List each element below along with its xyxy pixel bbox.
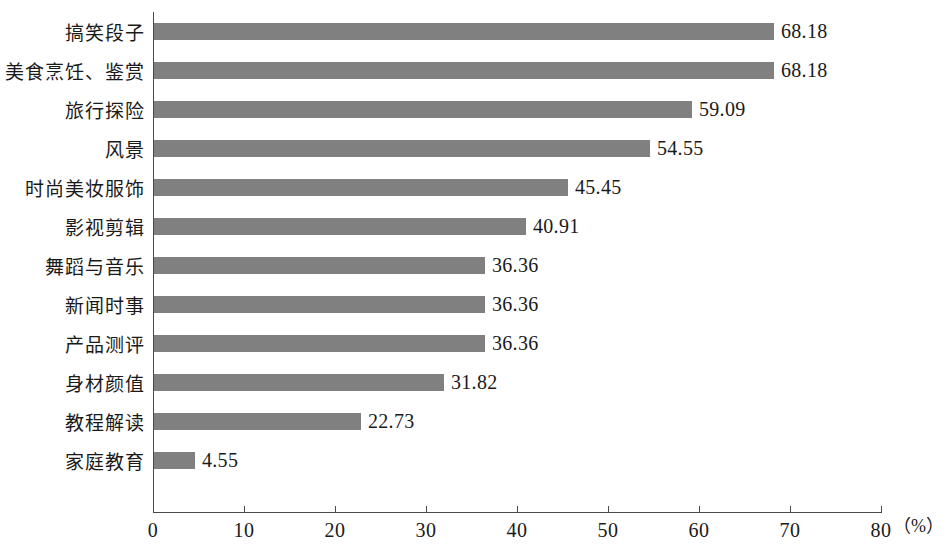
x-axis-tick-label: 50 bbox=[578, 516, 638, 544]
x-axis-tick bbox=[244, 506, 245, 512]
bar-value-label: 45.45 bbox=[575, 168, 622, 207]
plot-area: 搞笑段子68.18美食烹饪、鉴赏68.18旅行探险59.09风景54.55时尚美… bbox=[0, 0, 948, 546]
category-label: 家庭教育 bbox=[0, 441, 145, 480]
bar-row: 风景54.55 bbox=[0, 129, 948, 168]
category-label: 影视剪辑 bbox=[0, 207, 145, 246]
x-axis-tick bbox=[426, 506, 427, 512]
bar-row: 搞笑段子68.18 bbox=[0, 12, 948, 51]
bar-row: 时尚美妆服饰45.45 bbox=[0, 168, 948, 207]
bar-value-label: 36.36 bbox=[492, 285, 539, 324]
bar-value-label: 68.18 bbox=[781, 12, 828, 51]
x-axis-tick-label: 60 bbox=[669, 516, 729, 544]
bar-value-label: 40.91 bbox=[533, 207, 580, 246]
x-axis-tick bbox=[517, 506, 518, 512]
bar bbox=[154, 374, 444, 391]
bar bbox=[154, 296, 485, 313]
x-axis-line bbox=[153, 512, 882, 513]
category-label: 搞笑段子 bbox=[0, 12, 145, 51]
bar-value-label: 59.09 bbox=[699, 90, 746, 129]
x-axis-tick-label: 10 bbox=[214, 516, 274, 544]
bar-row: 影视剪辑40.91 bbox=[0, 207, 948, 246]
bar-row: 旅行探险59.09 bbox=[0, 90, 948, 129]
category-label: 新闻时事 bbox=[0, 285, 145, 324]
bar bbox=[154, 23, 774, 40]
x-axis-tick bbox=[699, 506, 700, 512]
bar-row: 教程解读22.73 bbox=[0, 402, 948, 441]
x-axis-tick-label: 0 bbox=[123, 516, 183, 544]
bar-chart: 搞笑段子68.18美食烹饪、鉴赏68.18旅行探险59.09风景54.55时尚美… bbox=[0, 0, 948, 546]
bar bbox=[154, 140, 650, 157]
category-label: 教程解读 bbox=[0, 402, 145, 441]
bar bbox=[154, 179, 568, 196]
bar-row: 家庭教育4.55 bbox=[0, 441, 948, 480]
bar-value-label: 54.55 bbox=[657, 129, 704, 168]
category-label: 旅行探险 bbox=[0, 90, 145, 129]
bar bbox=[154, 335, 485, 352]
x-axis-tick bbox=[608, 506, 609, 512]
category-label: 产品测评 bbox=[0, 324, 145, 363]
bar-value-label: 22.73 bbox=[368, 402, 415, 441]
bar bbox=[154, 452, 195, 469]
bar bbox=[154, 257, 485, 274]
x-axis-tick-label: 70 bbox=[760, 516, 820, 544]
bar-row: 新闻时事36.36 bbox=[0, 285, 948, 324]
category-label: 美食烹饪、鉴赏 bbox=[0, 51, 145, 90]
bar bbox=[154, 218, 526, 235]
bar-row: 产品测评36.36 bbox=[0, 324, 948, 363]
bar-value-label: 4.55 bbox=[202, 441, 238, 480]
bar bbox=[154, 101, 692, 118]
category-label: 时尚美妆服饰 bbox=[0, 168, 145, 207]
bar bbox=[154, 62, 774, 79]
bar-value-label: 36.36 bbox=[492, 324, 539, 363]
bar-value-label: 31.82 bbox=[451, 363, 498, 402]
x-axis-unit-label: （%） bbox=[893, 512, 944, 540]
x-axis-tick bbox=[153, 506, 154, 512]
x-axis-tick bbox=[881, 506, 882, 512]
x-axis-tick-label: 20 bbox=[305, 516, 365, 544]
x-axis-tick-label: 40 bbox=[487, 516, 547, 544]
bar-row: 身材颜值31.82 bbox=[0, 363, 948, 402]
bar bbox=[154, 413, 361, 430]
bar-value-label: 68.18 bbox=[781, 51, 828, 90]
bar-row: 舞蹈与音乐36.36 bbox=[0, 246, 948, 285]
x-axis-tick-label: 30 bbox=[396, 516, 456, 544]
x-axis-tick bbox=[790, 506, 791, 512]
category-label: 风景 bbox=[0, 129, 145, 168]
x-axis-tick bbox=[335, 506, 336, 512]
category-label: 身材颜值 bbox=[0, 363, 145, 402]
category-label: 舞蹈与音乐 bbox=[0, 246, 145, 285]
bar-value-label: 36.36 bbox=[492, 246, 539, 285]
bar-row: 美食烹饪、鉴赏68.18 bbox=[0, 51, 948, 90]
